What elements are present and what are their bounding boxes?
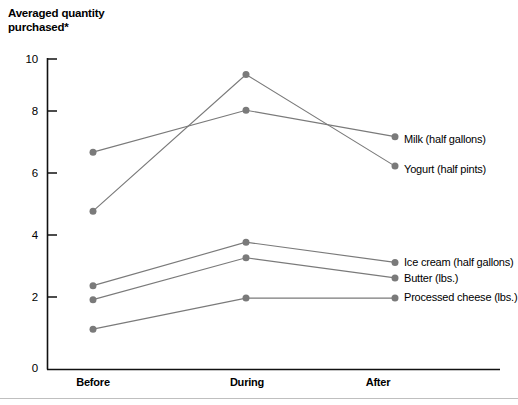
data-point: [243, 107, 250, 114]
data-point: [392, 133, 399, 140]
series-line-0: [93, 110, 395, 152]
data-point: [243, 71, 250, 78]
data-point: [90, 149, 97, 156]
series-group: [90, 71, 399, 333]
series-line-1: [93, 75, 395, 212]
chart-container: Averaged quantity purchased* 10 8 6 4 2 …: [0, 0, 518, 405]
data-point: [243, 295, 250, 302]
data-point: [392, 163, 399, 170]
data-point: [90, 282, 97, 289]
data-point: [392, 274, 399, 281]
data-point: [392, 259, 399, 266]
data-point: [243, 239, 250, 246]
data-point: [90, 208, 97, 215]
data-point: [243, 254, 250, 261]
plot-area: [0, 0, 518, 405]
series-line-2: [93, 242, 395, 285]
data-point: [392, 295, 399, 302]
series-line-3: [93, 258, 395, 300]
data-point: [90, 296, 97, 303]
data-point: [90, 326, 97, 333]
series-line-4: [93, 298, 395, 329]
